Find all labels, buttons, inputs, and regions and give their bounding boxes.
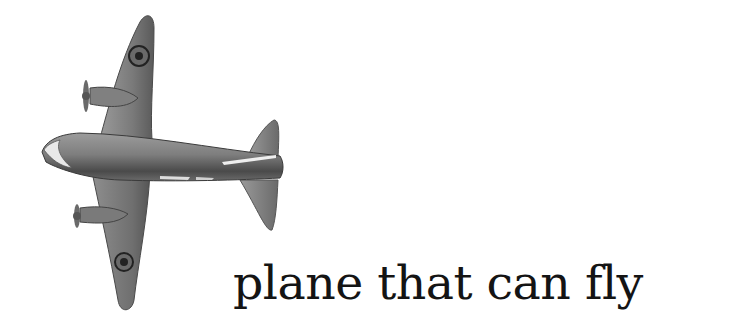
roundel-upper xyxy=(129,46,149,66)
upper-wing xyxy=(100,16,154,140)
roundel-lower xyxy=(115,253,133,271)
tail-fin-lower xyxy=(240,180,278,230)
caption-text: plane that can fly xyxy=(233,252,643,314)
fuselage xyxy=(42,133,283,181)
lower-wing xyxy=(92,172,150,310)
